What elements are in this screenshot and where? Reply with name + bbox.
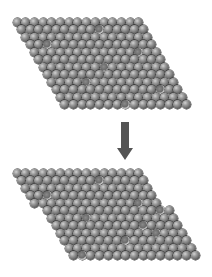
atom — [173, 251, 182, 260]
atom — [113, 251, 122, 260]
atom — [78, 251, 87, 260]
lattice-after-slip — [0, 0, 212, 277]
atom — [104, 251, 113, 260]
atom — [191, 251, 200, 260]
atom — [139, 251, 148, 260]
atom — [95, 251, 104, 260]
atom — [130, 251, 139, 260]
atom — [121, 251, 130, 260]
atom — [156, 251, 165, 260]
atom — [69, 251, 78, 260]
atom — [86, 251, 95, 260]
atom — [165, 251, 174, 260]
atom — [147, 251, 156, 260]
atom — [30, 199, 39, 208]
atom — [182, 251, 191, 260]
